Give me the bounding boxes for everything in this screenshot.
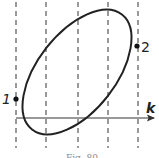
figure-diagram: k 1 2 Fig. 80 xyxy=(0,0,159,158)
k-axis-label: k xyxy=(146,100,157,116)
point-1-dot xyxy=(13,96,18,101)
point-2-label: 2 xyxy=(141,39,150,55)
point-2: 2 xyxy=(134,39,150,55)
dashed-lines xyxy=(16,2,138,148)
point-1-label: 1 xyxy=(2,91,11,107)
point-2-dot xyxy=(134,43,139,48)
figure-caption: Fig. 80 xyxy=(66,153,98,158)
ellipse-curve xyxy=(1,0,152,154)
